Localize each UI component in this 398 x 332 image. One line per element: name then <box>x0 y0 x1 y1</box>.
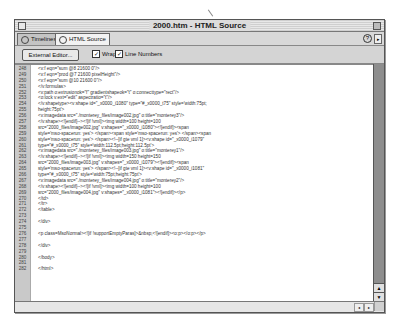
collapse-box-icon[interactable] <box>373 22 381 30</box>
line-number: 282 <box>15 266 30 272</box>
code-text[interactable]: </html> <box>30 266 53 272</box>
tab-timelines-label: Timelines <box>31 34 56 45</box>
external-editor-button[interactable]: External Editor... <box>22 49 79 61</box>
code-brackets-icon <box>59 36 67 44</box>
code-lines: 248<v:f eqn="sum @8 21600 0"/> 249<v:f e… <box>15 66 373 272</box>
code-text[interactable]: src="2000_files/image004.jpg" v:shapes="… <box>30 190 185 196</box>
tab-html-source[interactable]: HTML Source <box>55 33 110 45</box>
resize-grip-icon[interactable] <box>374 302 384 311</box>
horizontal-scrollbar[interactable]: ◂ ▸ <box>15 301 384 312</box>
scroll-down-arrow-icon[interactable]: ▼ <box>374 292 384 301</box>
wrap-checkbox[interactable]: ✓ Wrap <box>92 50 116 58</box>
close-box-icon[interactable] <box>18 22 26 30</box>
help-icon[interactable]: ? <box>363 34 372 43</box>
window-title: 2000.htm - HTML Source <box>149 20 250 31</box>
checkmark-icon[interactable]: ✓ <box>115 50 123 58</box>
clock-icon <box>21 36 29 44</box>
panel-tab-row: Timelines HTML Source ? ▸ <box>15 32 384 46</box>
source-toolbar: External Editor... ✓ Wrap ✓ Line Numbers <box>15 46 384 64</box>
code-text[interactable]: <p class=MsoNormal><![if !supportEmptyPa… <box>30 231 206 237</box>
line-numbers-label: Line Numbers <box>125 51 162 57</box>
html-source-window: 2000.htm - HTML Source Timelines HTML So… <box>14 19 385 313</box>
code-line: 282</html> <box>15 266 373 272</box>
vertical-scrollbar[interactable]: ▲ ▼ <box>373 64 384 301</box>
tab-html-source-label: HTML Source <box>69 34 106 45</box>
code-editor[interactable]: 248<v:f eqn="sum @8 21600 0"/> 249<v:f e… <box>15 64 373 302</box>
mouse-cursor <box>208 9 213 16</box>
scroll-right-arrow-icon[interactable]: ▸ <box>364 303 374 312</box>
checkmark-icon[interactable]: ✓ <box>92 50 100 58</box>
line-numbers-checkbox[interactable]: ✓ Line Numbers <box>115 50 162 58</box>
tab-timelines[interactable]: Timelines <box>17 33 60 45</box>
scroll-left-arrow-icon[interactable]: ◂ <box>354 303 364 312</box>
scroll-up-arrow-icon[interactable]: ▲ <box>374 283 384 292</box>
title-bar[interactable]: 2000.htm - HTML Source <box>15 20 384 32</box>
panel-menu-arrow-icon[interactable]: ▸ <box>374 34 382 44</box>
